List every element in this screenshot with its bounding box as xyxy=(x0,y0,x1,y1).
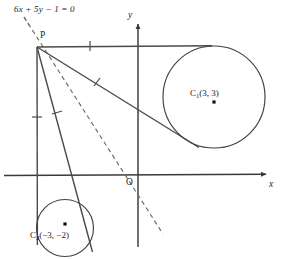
circle-c1-label: C1(3, 3) xyxy=(190,89,219,99)
line-equation-label: 6x + 5y − 1 = 0 xyxy=(14,5,75,14)
tangent-lines-to-circle-2 xyxy=(37,47,93,252)
circle-c2-label: C2(−3, −2) xyxy=(30,231,69,241)
point-p-label: P xyxy=(40,31,45,41)
circle-c2-label-coords: (−3, −2) xyxy=(39,230,69,240)
tangent-P-to-C1-upper xyxy=(37,46,212,47)
x-axis xyxy=(4,174,266,175)
circle-c1-label-coords: (3, 3) xyxy=(199,88,219,98)
origin-label: O xyxy=(126,178,133,188)
circle-c1-center-dot xyxy=(212,100,215,103)
y-axis-label: y xyxy=(128,11,132,21)
dashed-line-6x-plus-5y-minus-1 xyxy=(24,17,163,234)
circle-c2 xyxy=(37,200,94,257)
tangent-P-to-C1-lower xyxy=(37,47,199,148)
geometry-figure: 6x + 5y − 1 = 0 P y x O C1(3, 3) C2(−3, … xyxy=(0,0,281,259)
tick-mark-right-c2-tangent xyxy=(52,111,62,114)
tangent-P-to-C2-right xyxy=(37,47,93,252)
tangent-lines-to-circle-1 xyxy=(37,46,212,148)
circle-c2-center-dot xyxy=(63,222,66,225)
x-axis-label: x xyxy=(269,180,273,190)
axes xyxy=(4,24,266,247)
